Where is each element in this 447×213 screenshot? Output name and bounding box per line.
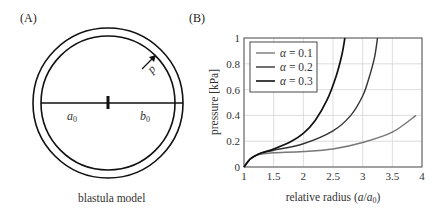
center-marker (107, 96, 110, 109)
y-tick-label: 1 (235, 32, 241, 44)
x-tick-label: 2 (301, 170, 307, 182)
x-tick-label: 1 (241, 170, 247, 182)
x-tick-labels: 11.522.533.54 (241, 170, 425, 182)
legend-entry-0: α = 0.1 (280, 47, 313, 59)
x-axis-label: relative radius (a/a0) (286, 191, 381, 205)
pressure-chart: 11.522.533.54 00.20.40.60.81 α = 0.1 α =… (208, 32, 425, 205)
x-tick-label: 2.5 (326, 170, 340, 182)
outer-radius-label: b0 (140, 109, 150, 124)
figure-canvas: p a0 b0 blastula model 11.522.533.54 00.… (0, 0, 447, 213)
legend-entry-1: α = 0.2 (280, 61, 313, 73)
chart-legend: α = 0.1 α = 0.2 α = 0.3 (250, 42, 317, 92)
x-tick-label: 3 (360, 170, 366, 182)
y-tick-label: 0.6 (226, 84, 240, 96)
x-tick-label: 1.5 (267, 170, 281, 182)
y-tick-label: 0.2 (226, 135, 240, 147)
legend-entry-2: α = 0.3 (280, 75, 313, 87)
y-axis-label: pressure [kPa] (208, 69, 221, 135)
pressure-label: p (144, 62, 159, 77)
inner-radius-label: a0 (67, 109, 77, 124)
y-tick-labels: 00.20.40.60.81 (226, 32, 240, 173)
y-tick-label: 0.8 (226, 58, 240, 70)
x-tick-label: 3.5 (385, 170, 399, 182)
x-tick-label: 4 (419, 170, 425, 182)
blastula-diagram: p a0 b0 blastula model (33, 28, 183, 204)
y-tick-label: 0.4 (226, 109, 240, 121)
y-tick-label: 0 (235, 161, 241, 173)
diagram-caption: blastula model (78, 192, 145, 204)
